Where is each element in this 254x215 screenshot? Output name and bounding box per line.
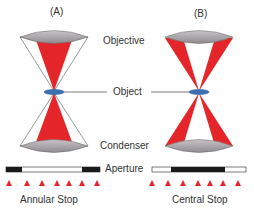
condenser-label: Condenser — [100, 141, 149, 151]
light-cone-top-left-b — [165, 38, 199, 91]
diagram-graphics — [0, 0, 254, 215]
panel-b-optics — [165, 31, 233, 153]
annular-stop-bar — [6, 167, 100, 172]
panel-label-b: (B) — [194, 9, 207, 19]
objective-label: Objective — [103, 36, 145, 46]
object-specimen-b — [189, 89, 209, 94]
microscopy-stop-diagram: (A) (B) Objective Object Condenser Apert… — [0, 0, 254, 215]
panel-a-optics — [20, 31, 88, 153]
annular-stop-label: Annular Stop — [20, 195, 78, 205]
light-cone-bottom-right-b — [199, 93, 233, 146]
light-arrows-a — [6, 180, 100, 186]
panel-label-a: (A) — [50, 7, 63, 17]
central-stop-label: Central Stop — [172, 195, 228, 205]
object-specimen-a — [44, 89, 64, 94]
light-arrows-b — [149, 180, 241, 186]
light-cone-top-right-b — [199, 38, 233, 91]
light-cone-bottom-left-b — [165, 93, 199, 146]
aperture-label: Aperture — [105, 164, 143, 174]
object-label: Object — [113, 87, 142, 97]
central-stop-bar — [152, 167, 246, 172]
